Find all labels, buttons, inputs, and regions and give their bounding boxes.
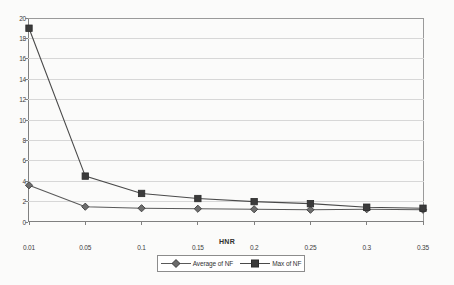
square-marker-icon: [240, 259, 270, 268]
data-point-square: [364, 204, 370, 210]
series-line: [29, 28, 423, 208]
data-point-diamond: [194, 205, 201, 212]
legend-item-average: Average of NF: [161, 259, 234, 268]
data-point-diamond: [307, 206, 314, 213]
data-point-square: [307, 200, 313, 206]
x-tick-mark: [366, 222, 367, 225]
data-point-square: [420, 205, 426, 211]
x-tick-label: 0.3: [352, 244, 382, 252]
data-point-square: [82, 173, 88, 179]
legend-label-average: Average of NF: [193, 260, 234, 267]
y-tick-label: 16: [8, 55, 26, 62]
legend-item-max: Max of NF: [240, 259, 301, 268]
series-max: [26, 25, 426, 211]
chart-legend: Average of NF Max of NF: [157, 255, 305, 272]
x-tick-mark: [423, 222, 424, 225]
x-tick-mark: [197, 222, 198, 225]
plot-area: 02468101214161820 0.010.050.10.150.20.25…: [28, 18, 424, 222]
data-point-square: [138, 190, 144, 196]
y-tick-label: 8: [8, 137, 26, 144]
y-tick-label: 10: [8, 117, 26, 124]
x-tick-label: 0.35: [408, 244, 438, 252]
y-tick-label: 12: [8, 96, 26, 103]
data-point-diamond: [25, 182, 32, 189]
x-tick-mark: [254, 222, 255, 225]
x-tick-label: 0.2: [239, 244, 269, 252]
data-point-diamond: [138, 205, 145, 212]
x-tick-mark: [29, 222, 30, 225]
x-tick-label: 0.01: [14, 244, 44, 252]
x-tick-mark: [310, 222, 311, 225]
legend-label-max: Max of NF: [272, 260, 301, 267]
y-tick-label: 20: [8, 15, 26, 22]
series-plot: [28, 18, 424, 222]
y-tick-label: 0: [8, 219, 26, 226]
data-point-square: [26, 25, 32, 31]
y-tick-label: 18: [8, 35, 26, 42]
x-tick-mark: [85, 222, 86, 225]
y-tick-label: 4: [8, 178, 26, 185]
x-tick-label: 0.05: [70, 244, 100, 252]
data-point-diamond: [251, 206, 258, 213]
data-point-square: [195, 195, 201, 201]
data-point-square: [251, 198, 257, 204]
x-tick-label: 0.25: [295, 244, 325, 252]
diamond-marker-icon: [161, 259, 191, 268]
line-chart-figure: 02468101214161820 0.010.050.10.150.20.25…: [0, 0, 454, 285]
x-tick-label: 0.15: [183, 244, 213, 252]
x-tick-label: 0.1: [127, 244, 157, 252]
x-axis-title: HNR: [0, 238, 454, 245]
y-tick-label: 2: [8, 198, 26, 205]
data-point-diamond: [82, 203, 89, 210]
x-tick-mark: [141, 222, 142, 225]
y-tick-label: 14: [8, 76, 26, 83]
y-tick-label: 6: [8, 157, 26, 164]
